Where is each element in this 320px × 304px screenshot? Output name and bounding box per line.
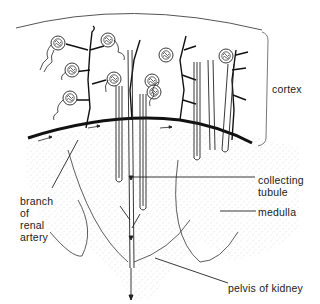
label-branch-line2: of <box>20 207 53 219</box>
label-branch-line3: renal <box>20 219 53 231</box>
label-collecting-line2: tubule <box>258 186 304 198</box>
capsule-outline <box>16 13 262 30</box>
label-collecting-tubule: collecting tubule <box>258 174 304 198</box>
label-branch-line1: branch <box>20 195 53 207</box>
kidney-diagram <box>0 0 320 304</box>
label-collecting-line1: collecting <box>258 174 304 186</box>
label-branch-line4: artery <box>20 231 53 243</box>
label-branch-of-renal-artery: branch of renal artery <box>20 195 53 243</box>
glomeruli <box>51 33 233 105</box>
label-medulla: medulla <box>258 206 296 218</box>
label-cortex: cortex <box>272 83 302 95</box>
label-pelvis-of-kidney: pelvis of kidney <box>228 282 303 294</box>
cortex-bracket <box>258 32 268 146</box>
